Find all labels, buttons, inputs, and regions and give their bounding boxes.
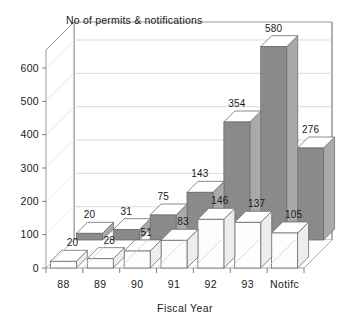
bar-front-92 xyxy=(198,208,235,268)
y-tick-label: 600 xyxy=(21,62,39,74)
data-label-front-93: 137 xyxy=(248,198,266,209)
left-wall xyxy=(46,22,74,268)
x-tick-label-90: 90 xyxy=(131,278,143,290)
x-tick-label-Notifc: Notifc xyxy=(270,278,299,290)
bar-front-face xyxy=(113,230,139,240)
chart-title: No of permits & notifications xyxy=(66,14,203,26)
data-label-back-90: 75 xyxy=(157,191,169,202)
data-label-back-91: 143 xyxy=(191,168,209,179)
data-label-front-90: 51 xyxy=(140,227,152,238)
x-tick-label-88: 88 xyxy=(57,278,69,290)
data-label-front-92: 146 xyxy=(211,195,229,206)
bar-front-face xyxy=(161,240,187,268)
data-label-front-Notifc: 105 xyxy=(285,209,303,220)
y-tick-label: 200 xyxy=(21,195,39,207)
x-tick-label-89: 89 xyxy=(94,278,106,290)
bar-side-face xyxy=(324,137,335,240)
y-tick-label: 500 xyxy=(21,95,39,107)
bar-front-face xyxy=(235,222,261,268)
x-tick-label-92: 92 xyxy=(205,278,217,290)
bar-front-face xyxy=(76,233,102,240)
data-label-front-91: 83 xyxy=(177,216,189,227)
bar-chart-3d: 0100200300400500600 888990919293Notifc 2… xyxy=(0,0,353,327)
data-label-back-93: 580 xyxy=(265,23,283,34)
bar-front-face xyxy=(198,219,224,268)
data-label-front-88: 20 xyxy=(67,237,79,248)
x-tick-label-91: 91 xyxy=(168,278,180,290)
data-label-back-Notifc: 276 xyxy=(302,124,320,135)
y-tick-label: 100 xyxy=(21,228,39,240)
y-tick-label: 300 xyxy=(21,162,39,174)
bar-front-93 xyxy=(235,211,272,268)
y-tick-label: 400 xyxy=(21,128,39,140)
data-label-back-89: 31 xyxy=(121,206,133,217)
bar-front-91 xyxy=(161,229,198,268)
x-axis-title: Fiscal Year xyxy=(157,302,213,314)
bar-front-face xyxy=(50,261,76,268)
data-label-back-92: 354 xyxy=(228,98,246,109)
data-label-back-88: 20 xyxy=(84,209,96,220)
x-tick-label-93: 93 xyxy=(241,278,253,290)
y-tick-label: 0 xyxy=(33,262,39,274)
chart-root: 0100200300400500600 888990919293Notifc 2… xyxy=(0,0,353,327)
data-label-front-89: 28 xyxy=(104,235,116,246)
